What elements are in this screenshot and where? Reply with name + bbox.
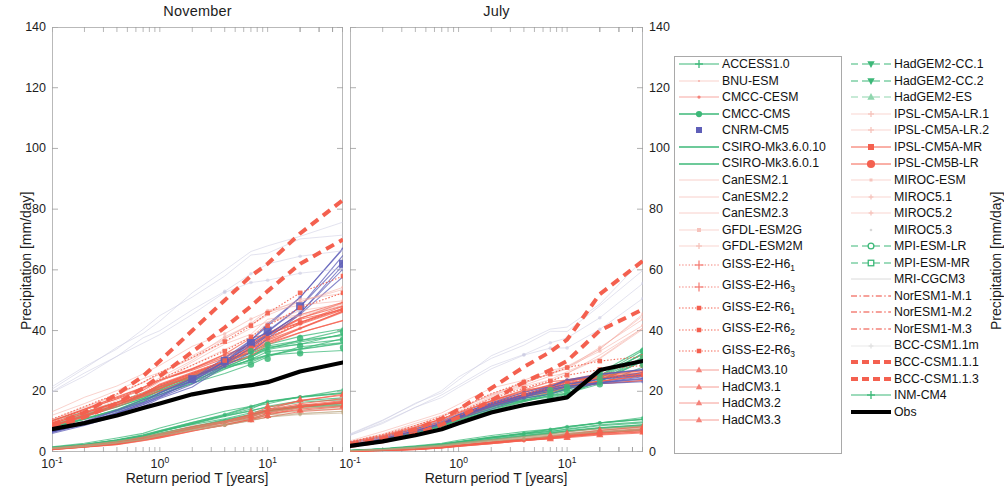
legend-item[interactable]: MIROC5.3: [850, 221, 1004, 238]
legend-item[interactable]: CMCC-CMS: [678, 106, 846, 123]
legend-line-sample: [678, 300, 720, 316]
legend-item[interactable]: BCC-CSM1.1.1: [850, 354, 1004, 371]
legend-item[interactable]: BNU-ESM: [678, 73, 846, 90]
legend-item-label: GFDL-ESM2M: [720, 240, 803, 252]
legend-item[interactable]: MRI-CGCM3: [850, 271, 1004, 288]
x-tick-label: 101: [258, 455, 277, 471]
legend-item-label: MIROC5.2: [892, 207, 952, 219]
legend-item-label: CSIRO-Mk3.6.0.10: [720, 141, 826, 153]
legend-marker-icon: [678, 300, 720, 316]
legend-line-sample: [678, 379, 720, 395]
legend-marker-icon: [678, 379, 720, 395]
legend-item-label: HadCM3.3: [720, 414, 781, 426]
legend-marker-icon: [678, 156, 720, 172]
legend-line-sample: [678, 89, 720, 105]
legend-item[interactable]: INM-CM4: [850, 387, 1004, 404]
legend-line-sample: [678, 73, 720, 89]
legend-line-sample: [678, 238, 720, 254]
legend-item-label: Obs: [892, 406, 917, 418]
legend-item[interactable]: HadCM3.10: [678, 362, 846, 379]
legend-item[interactable]: CanESM2.2: [678, 188, 846, 205]
legend-item[interactable]: MPI-ESM-MR: [850, 255, 1004, 272]
legend-marker-icon: [678, 73, 720, 89]
legend-item[interactable]: CSIRO-Mk3.6.0.1: [678, 155, 846, 172]
plot-canvas-july: [350, 27, 643, 452]
legend-item[interactable]: MIROC5.2: [850, 205, 1004, 222]
legend-marker-icon: [850, 106, 892, 122]
legend-item[interactable]: MIROC5.1: [850, 188, 1004, 205]
legend-line-sample: [678, 139, 720, 155]
legend-item[interactable]: IPSL-CM5A-LR.2: [850, 122, 1004, 139]
legend-item[interactable]: CMCC-CESM: [678, 89, 846, 106]
legend-item[interactable]: NorESM1-M.1: [850, 288, 1004, 305]
legend-item[interactable]: CanESM2.1: [678, 172, 846, 189]
legend-marker-icon: [678, 122, 720, 138]
legend-item-label: MIROC-ESM: [892, 174, 966, 186]
legend-marker-icon: [678, 106, 720, 122]
legend-item[interactable]: BCC-CSM1.1m: [850, 337, 1004, 354]
y-tick-label: 20: [12, 384, 46, 398]
legend-line-sample: [678, 395, 720, 411]
y-tick-label: 120: [12, 81, 46, 95]
legend-item[interactable]: Obs: [850, 403, 1004, 420]
legend-item[interactable]: HadCM3.2: [678, 395, 846, 412]
legend-item-label: CMCC-CESM: [720, 91, 799, 103]
legend-item[interactable]: IPSL-CM5B-LR: [850, 155, 1004, 172]
legend-line-sample: [850, 354, 892, 370]
legend-item-label: BCC-CSM1.1.3: [892, 373, 979, 385]
legend-marker-icon: [678, 395, 720, 411]
legend-item[interactable]: CNRM-CM5: [678, 122, 846, 139]
legend-item-label: CanESM2.2: [720, 191, 788, 203]
legend-item[interactable]: HadGEM2-ES: [850, 89, 1004, 106]
legend-item[interactable]: GFDL-ESM2M: [678, 238, 846, 255]
legend-item[interactable]: IPSL-CM5A-MR: [850, 139, 1004, 156]
legend-item-label: NorESM1-M.2: [892, 306, 972, 318]
figure-root: November 020406080100120140 Precipitatio…: [0, 0, 1004, 495]
legend-item[interactable]: HadCM3.3: [678, 412, 846, 429]
legend-item[interactable]: GISS-E2-R61: [678, 298, 846, 320]
legend-line-sample: [850, 156, 892, 172]
legend-item-label: CSIRO-Mk3.6.0.1: [720, 157, 819, 169]
y-tick-label: 140: [12, 20, 46, 34]
legend-item[interactable]: NorESM1-M.3: [850, 321, 1004, 338]
legend-column-right: HadGEM2-CC.1HadGEM2-CC.2HadGEM2-ESIPSL-C…: [850, 56, 1004, 420]
legend-item[interactable]: CSIRO-Mk3.6.0.10: [678, 139, 846, 156]
legend-item-label: CanESM2.1: [720, 174, 788, 186]
legend-item[interactable]: HadGEM2-CC.1: [850, 56, 1004, 73]
legend-item-label: GISS-E2-R63: [720, 344, 795, 359]
legend-line-sample: [850, 205, 892, 221]
legend-line-sample: [678, 222, 720, 238]
legend-item[interactable]: GISS-E2-H63: [678, 276, 846, 298]
legend-item[interactable]: GFDL-ESM2G: [678, 221, 846, 238]
legend-item[interactable]: HadGEM2-CC.2: [850, 73, 1004, 90]
panel-title-july: July: [350, 3, 643, 19]
legend-line-sample: [850, 371, 892, 387]
legend-item[interactable]: CanESM2.3: [678, 205, 846, 222]
legend-item-label: HadCM3.10: [720, 364, 788, 376]
legend-item[interactable]: BCC-CSM1.1.3: [850, 370, 1004, 387]
legend-marker-icon: [850, 56, 892, 72]
legend-item[interactable]: MIROC-ESM: [850, 172, 1004, 189]
legend-line-sample: [678, 322, 720, 338]
legend-marker-icon: [678, 172, 720, 188]
legend-item[interactable]: IPSL-CM5A-LR.1: [850, 106, 1004, 123]
legend-item-subscript: 1: [790, 263, 795, 273]
legend-line-sample: [850, 189, 892, 205]
legend-line-sample: [850, 255, 892, 271]
legend-marker-icon: [678, 362, 720, 378]
legend-item-label: GFDL-ESM2G: [720, 224, 802, 236]
legend-item[interactable]: HadCM3.1: [678, 379, 846, 396]
legend-item-label: IPSL-CM5A-LR.2: [892, 124, 989, 136]
y-axis-label-left: Precipitation [mm/day]: [18, 192, 34, 331]
legend-marker-icon: [850, 139, 892, 155]
legend-item[interactable]: GISS-E2-R62: [678, 319, 846, 341]
legend-item-label: IPSL-CM5A-LR.1: [892, 108, 989, 120]
legend-item[interactable]: NorESM1-M.2: [850, 304, 1004, 321]
legend-item[interactable]: GISS-E2-H61: [678, 255, 846, 277]
legend-marker-icon: [850, 404, 892, 420]
legend-marker-icon: [850, 122, 892, 138]
legend-item[interactable]: GISS-E2-R63: [678, 341, 846, 363]
legend-marker-icon: [850, 172, 892, 188]
legend-item[interactable]: ACCESS1.0: [678, 56, 846, 73]
legend-item[interactable]: MPI-ESM-LR: [850, 238, 1004, 255]
